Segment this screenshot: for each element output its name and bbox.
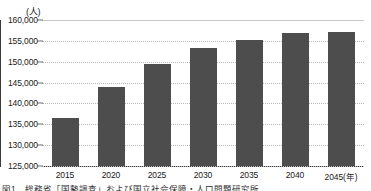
bar-series-layer (42, 20, 364, 166)
y-axis-tick-label: 125,000 (0, 161, 38, 171)
bar-slot (42, 20, 88, 166)
x-axis-tick-label: 2020 (88, 170, 134, 180)
x-axis-tick-label: 2045(年) (318, 170, 364, 182)
x-axis-tick-label: 2030 (180, 170, 226, 180)
bar-slot (88, 20, 134, 166)
bar-slot (180, 20, 226, 166)
bar (282, 33, 309, 166)
y-axis-tick-label: 160,000 (0, 15, 38, 25)
figure-caption: 図1 総務省「国勢調査」および国立社会保障・人口問題研究所 (2, 184, 369, 191)
y-axis-tick-label: 140,000 (0, 98, 38, 108)
bar (236, 40, 263, 166)
y-axis-tick-label: 135,000 (0, 119, 38, 129)
x-axis-tick-label: 2015 (42, 170, 88, 180)
x-axis-tick-label: 2025 (134, 170, 180, 180)
bar (328, 32, 355, 166)
bar (190, 48, 217, 166)
y-axis-tick-label: 150,000 (0, 57, 38, 67)
bar-slot (318, 20, 364, 166)
bar (98, 87, 125, 166)
bar (144, 64, 171, 166)
x-axis-tick-label: 2035 (226, 170, 272, 180)
gridline (42, 166, 364, 167)
bar (52, 118, 79, 166)
y-axis-tick-label: 130,000 (0, 140, 38, 150)
bar-slot (226, 20, 272, 166)
y-axis-tick-label: 155,000 (0, 36, 38, 46)
x-axis-tick-label: 2040 (272, 170, 318, 180)
y-axis-tick-label: 145,000 (0, 78, 38, 88)
bar-slot (134, 20, 180, 166)
bar-chart-figure: (人) 125,000130,000135,000140,000145,0001… (0, 0, 371, 191)
bar-slot (272, 20, 318, 166)
